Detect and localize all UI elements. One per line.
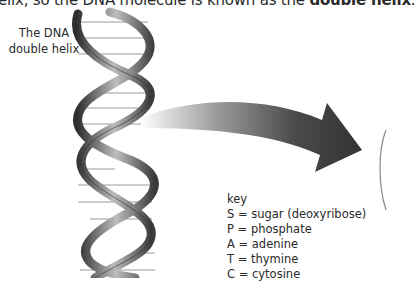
arrow-icon <box>140 102 362 172</box>
key-item-thymine: T = thymine <box>227 252 366 267</box>
key-item-phosphate: P = phosphate <box>227 222 366 237</box>
key-title: key <box>227 192 366 207</box>
key-legend: key S = sugar (deoxyribose) P = phosphat… <box>227 192 366 282</box>
body-text-suffix: . <box>411 0 415 9</box>
key-item-cytosine: C = cytosine <box>227 267 366 282</box>
magnified-circle-edge <box>380 130 386 210</box>
helix-strands <box>77 12 155 278</box>
key-item-adenine: A = adenine <box>227 237 366 252</box>
key-item-sugar: S = sugar (deoxyribose) <box>227 207 366 222</box>
